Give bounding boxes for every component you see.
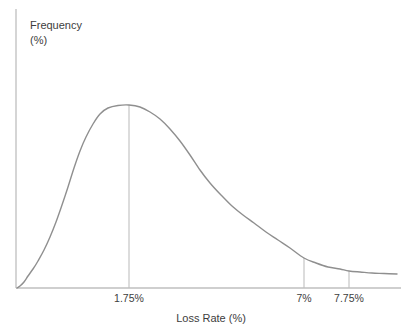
chart-canvas	[0, 0, 416, 336]
x-tick-label-7-75pct: 7.75%	[334, 292, 364, 304]
y-axis-title-line1: Frequency	[30, 18, 82, 33]
y-axis-title: Frequency (%)	[30, 18, 82, 48]
loss-rate-distribution-figure: Frequency (%) 1.75% 7% 7.75% Loss Rate (…	[0, 0, 416, 336]
x-tick-label-1-75pct: 1.75%	[114, 292, 144, 304]
y-axis-title-line2: (%)	[30, 33, 82, 48]
distribution-curve	[17, 105, 397, 288]
x-axis-title: Loss Rate (%)	[176, 312, 246, 324]
x-tick-label-7pct: 7%	[296, 292, 311, 304]
